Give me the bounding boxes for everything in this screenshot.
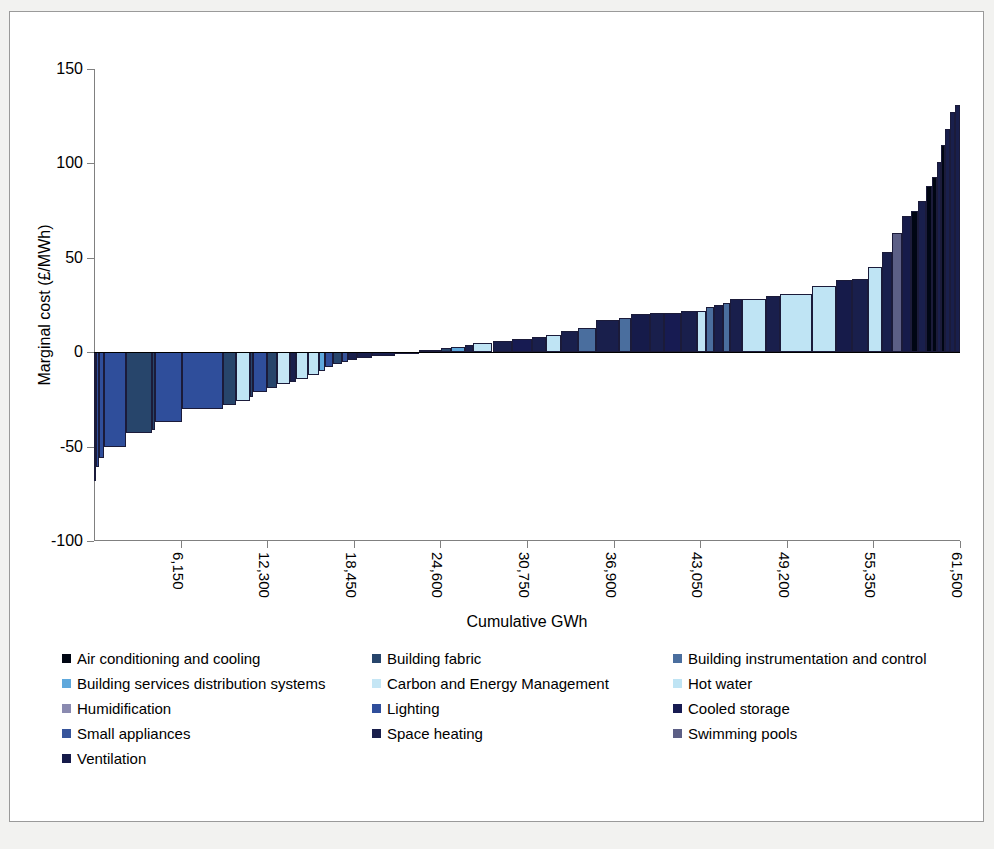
legend-swatch-icon	[372, 654, 381, 663]
legend-label: Humidification	[77, 700, 171, 717]
legend-item-space-heating[interactable]: Space heating	[372, 725, 673, 742]
y-axis-tick-label: 150	[56, 60, 83, 78]
legend-row: Air conditioning and coolingBuilding fab…	[62, 650, 962, 667]
bar-space-heating	[730, 299, 743, 352]
bar-hot-water	[308, 352, 319, 375]
legend-item-building-fabric[interactable]: Building fabric	[372, 650, 673, 667]
bar-hot-water	[473, 343, 492, 352]
legend-label: Small appliances	[77, 725, 190, 742]
legend-label: Space heating	[387, 725, 483, 742]
legend-item-cooled-storage[interactable]: Cooled storage	[673, 700, 962, 717]
legend-label: Lighting	[387, 700, 440, 717]
legend-row: HumidificationLightingCooled storage	[62, 700, 962, 717]
x-axis-tick	[873, 541, 874, 548]
x-axis-tick	[354, 541, 355, 548]
bar-space-heating	[561, 331, 578, 352]
legend-item-ventilation[interactable]: Ventilation	[62, 750, 372, 767]
legend-label: Ventilation	[77, 750, 146, 767]
bar-air-conditioning-and-cooling	[911, 211, 918, 353]
legend-label: Swimming pools	[688, 725, 797, 742]
y-axis-tick-label: 50	[65, 249, 83, 267]
bar-hot-water	[868, 267, 881, 352]
bar-cooled-storage	[512, 339, 532, 352]
x-axis-tick	[181, 541, 182, 548]
bar-building-instrumentation-and-control	[723, 303, 730, 352]
bar-cooled-storage	[664, 313, 682, 353]
bar-hot-water	[236, 352, 250, 401]
y-axis-tick-label: 100	[56, 154, 83, 172]
legend-row: Small appliancesSpace heatingSwimming po…	[62, 725, 962, 742]
legend-item-building-instrumentation-and-control[interactable]: Building instrumentation and control	[673, 650, 962, 667]
x-axis-tick-label: 12,300	[256, 552, 273, 598]
x-axis-tick-label: 49,200	[776, 552, 793, 598]
bar-space-heating	[918, 201, 926, 352]
legend-swatch-icon	[62, 679, 71, 688]
bar-space-heating	[882, 252, 892, 352]
legend-item-building-services-distribution-systems[interactable]: Building services distribution systems	[62, 675, 372, 692]
legend-swatch-icon	[673, 729, 682, 738]
legend-swatch-icon	[673, 679, 682, 688]
y-axis-tick-label: 0	[74, 343, 83, 361]
bar-space-heating	[532, 337, 546, 352]
bar-hot-water	[296, 352, 309, 378]
bar-space-heating	[493, 341, 513, 352]
y-axis-tick-label: -100	[51, 532, 83, 550]
bar-building-fabric	[126, 352, 152, 433]
legend-item-swimming-pools[interactable]: Swimming pools	[673, 725, 962, 742]
legend-label: Hot water	[688, 675, 752, 692]
bar-hot-water	[812, 286, 836, 352]
y-axis-tick	[87, 163, 94, 164]
bar-space-heating	[348, 352, 357, 360]
legend-swatch-icon	[673, 704, 682, 713]
x-axis-title-text: Cumulative GWh	[467, 613, 588, 630]
legend-swatch-icon	[62, 729, 71, 738]
legend-label: Building services distribution systems	[77, 675, 325, 692]
legend-swatch-icon	[62, 704, 71, 713]
legend-swatch-icon	[673, 654, 682, 663]
bar-ventilation	[836, 280, 851, 352]
bar-building-instrumentation-and-control	[706, 307, 714, 352]
legend-swatch-icon	[62, 654, 71, 663]
chart-legend: Air conditioning and coolingBuilding fab…	[62, 650, 962, 775]
x-axis-tick	[700, 541, 701, 548]
legend-label: Air conditioning and cooling	[77, 650, 260, 667]
bar-hot-water	[742, 299, 766, 352]
legend-swatch-icon	[372, 729, 381, 738]
bar-lighting	[182, 352, 224, 409]
bar-lighting	[104, 352, 126, 446]
x-axis-tick	[440, 541, 441, 548]
x-axis-tick	[614, 541, 615, 548]
bar-hot-water	[546, 335, 561, 352]
legend-item-humidification[interactable]: Humidification	[62, 700, 372, 717]
x-axis-tick-label: 6,150	[170, 552, 187, 590]
x-axis-title: Cumulative GWh	[94, 613, 960, 631]
bar-building-instrumentation-and-control	[619, 318, 632, 352]
y-axis-tick	[87, 69, 94, 70]
bar-building-fabric	[333, 352, 342, 363]
x-axis-tick	[960, 541, 961, 548]
bar-space-heating	[681, 311, 696, 353]
legend-item-lighting[interactable]: Lighting	[372, 700, 673, 717]
plot-wrapper: Marginal cost (£/MWh) 150100500-50-100 6…	[10, 12, 983, 821]
x-axis-tick-label: 36,900	[603, 552, 620, 598]
legend-swatch-icon	[372, 704, 381, 713]
chart-frame: Marginal cost (£/MWh) 150100500-50-100 6…	[9, 11, 984, 822]
bar-building-instrumentation-and-control	[578, 328, 596, 353]
legend-item-air-conditioning-and-cooling[interactable]: Air conditioning and cooling	[62, 650, 372, 667]
bar-ventilation	[631, 314, 650, 352]
bar-space-heating	[766, 296, 779, 353]
legend-item-small-appliances[interactable]: Small appliances	[62, 725, 372, 742]
y-axis-title: Marginal cost (£/MWh)	[32, 69, 58, 541]
bar-space-heating	[650, 313, 663, 353]
y-axis-tick	[87, 352, 94, 353]
legend-item-carbon-and-energy-management[interactable]: Carbon and Energy Management	[372, 675, 673, 692]
legend-swatch-icon	[372, 679, 381, 688]
bar-building-fabric	[267, 352, 277, 388]
legend-item-hot-water[interactable]: Hot water	[673, 675, 962, 692]
bar-space-heating	[465, 345, 473, 353]
bar-space-heating	[955, 105, 960, 352]
bar-lighting	[325, 352, 333, 367]
bar-swimming-pools	[892, 233, 903, 352]
bar-space-heating	[852, 279, 869, 353]
bar-building-fabric	[223, 352, 235, 405]
